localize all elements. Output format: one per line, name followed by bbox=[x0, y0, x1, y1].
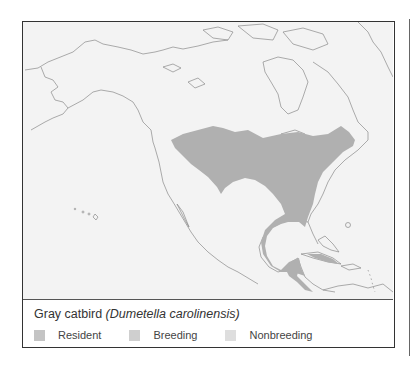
alaska-west-coast bbox=[31, 67, 68, 130]
bermuda bbox=[346, 223, 351, 228]
legend-item-resident: Resident bbox=[34, 329, 101, 341]
map-legend: Resident Breeding Nonbreeding bbox=[34, 328, 340, 342]
lesser-antilles bbox=[368, 270, 375, 292]
legend-label: Resident bbox=[58, 329, 101, 341]
hispaniola bbox=[341, 264, 361, 270]
arctic-island-1 bbox=[163, 64, 181, 72]
range-area bbox=[171, 126, 355, 276]
legend-item-nonbreeding: Nonbreeding bbox=[225, 329, 312, 341]
arctic-island-5 bbox=[283, 28, 328, 50]
nonbreeding-swatch bbox=[225, 330, 236, 341]
legend-label: Breeding bbox=[153, 329, 197, 341]
legend-item-breeding: Breeding bbox=[129, 329, 197, 341]
alaska-south-coast bbox=[68, 90, 155, 148]
species-scientific-name: (Dumetella carolinensis) bbox=[106, 307, 240, 321]
page-margin-rule bbox=[409, 19, 410, 356]
baja-california bbox=[177, 204, 189, 227]
bahamas bbox=[318, 236, 339, 252]
hudson-bay bbox=[263, 57, 308, 114]
map-caption: Gray catbird (Dumetella carolinensis) bbox=[34, 307, 240, 321]
range-map-figure: Gray catbird (Dumetella carolinensis) Re… bbox=[22, 21, 395, 348]
map-svg bbox=[23, 22, 393, 299]
arctic-island-3 bbox=[203, 27, 233, 40]
south-america-coast bbox=[323, 284, 393, 292]
resident-swatch bbox=[34, 330, 45, 341]
range-map bbox=[23, 22, 393, 300]
hawaii-islands bbox=[74, 208, 98, 220]
greenland-coast bbox=[358, 22, 393, 77]
alaska-coast bbox=[25, 40, 228, 70]
legend-label: Nonbreeding bbox=[249, 329, 312, 341]
arctic-island-4 bbox=[238, 24, 278, 40]
breeding-swatch bbox=[129, 330, 140, 341]
arctic-island-2 bbox=[188, 78, 205, 88]
species-common-name: Gray catbird bbox=[34, 307, 102, 321]
